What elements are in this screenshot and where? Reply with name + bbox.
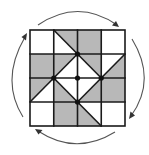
cell-1-3 [54, 102, 78, 126]
arc-right-arrow [131, 39, 144, 116]
dot-right [99, 75, 104, 80]
cell-0-1 [30, 54, 54, 78]
cell-0-0 [30, 30, 54, 54]
cell-3-3 [101, 102, 125, 126]
arrowhead-right-icon [129, 112, 135, 120]
arc-top-arrow [38, 12, 117, 26]
arc-left-arrow [12, 37, 25, 117]
cell-0-3 [30, 102, 54, 126]
dot-center [75, 75, 80, 80]
cell-3-2 [101, 78, 125, 102]
rotation-grid-diagram [0, 0, 149, 155]
dot-top [75, 51, 80, 56]
dot-bottom [75, 99, 80, 104]
cell-2-0 [78, 30, 102, 54]
dot-left [51, 75, 56, 80]
cell-3-0 [101, 30, 125, 54]
arc-bottom-arrow [38, 131, 115, 144]
